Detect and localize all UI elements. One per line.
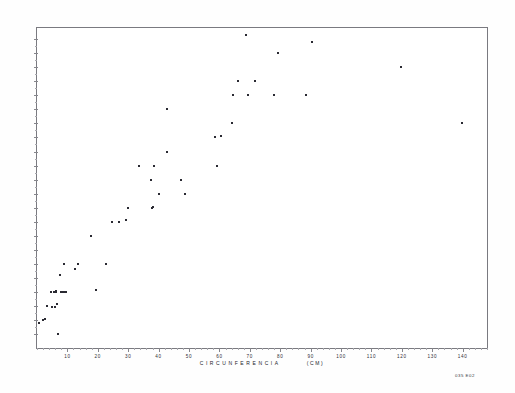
x-axis-tick-label: 60 <box>216 354 223 359</box>
x-axis-tick <box>219 348 220 352</box>
x-axis-tick-label: 120 <box>397 354 407 359</box>
y-axis-tick <box>34 109 38 110</box>
y-axis-tick <box>34 81 38 82</box>
y-axis-tick <box>34 53 38 54</box>
y-axis-minor-tick <box>35 271 37 272</box>
x-axis-minor-tick <box>262 348 263 350</box>
x-axis-minor-tick <box>146 348 147 350</box>
x-axis-tick <box>371 348 372 352</box>
x-axis-minor-tick <box>335 348 336 350</box>
x-axis-tick <box>189 348 190 352</box>
x-axis-tick-label: 50 <box>186 354 193 359</box>
y-axis-minor-tick <box>35 88 37 89</box>
data-point <box>74 268 76 270</box>
x-axis-minor-tick <box>469 348 470 350</box>
y-axis-tick <box>34 306 38 307</box>
y-axis-minor-tick <box>35 327 37 328</box>
y-axis-tick <box>34 67 38 68</box>
data-point <box>254 80 256 82</box>
data-point <box>90 235 92 237</box>
data-point <box>273 94 275 96</box>
y-axis-tick <box>34 208 38 209</box>
x-axis-minor-tick <box>286 348 287 350</box>
x-axis-tick <box>250 348 251 352</box>
x-axis-minor-tick <box>256 348 257 350</box>
x-axis-minor-tick <box>359 348 360 350</box>
y-axis-tick <box>34 39 38 40</box>
data-point <box>63 263 65 265</box>
x-axis-tick <box>159 348 160 352</box>
x-axis-minor-tick <box>213 348 214 350</box>
x-axis-minor-tick <box>232 348 233 350</box>
data-point <box>138 165 140 167</box>
x-axis-minor-tick <box>414 348 415 350</box>
x-axis-minor-tick <box>37 348 38 350</box>
x-axis-tick-label: 140 <box>458 354 468 359</box>
x-axis-tick <box>128 348 129 352</box>
y-axis-minor-tick <box>35 74 37 75</box>
x-axis-minor-tick <box>298 348 299 350</box>
x-axis-tick <box>311 348 312 352</box>
x-axis-minor-tick <box>305 348 306 350</box>
data-point <box>59 274 61 276</box>
data-point <box>166 108 168 110</box>
x-axis-minor-tick <box>244 348 245 350</box>
x-axis-tick-label: 10 <box>64 354 71 359</box>
x-axis-minor-tick <box>451 348 452 350</box>
y-axis-tick <box>34 278 38 279</box>
x-axis-minor-tick <box>55 348 56 350</box>
y-axis-tick <box>34 137 38 138</box>
x-axis-minor-tick <box>292 348 293 350</box>
corner-stamp: 035 E02 <box>455 373 475 378</box>
x-axis-tick-label: 100 <box>336 354 346 359</box>
data-point <box>125 219 127 221</box>
x-axis-tick <box>67 348 68 352</box>
x-axis-tick <box>432 348 433 352</box>
data-point <box>237 80 239 82</box>
x-axis-minor-tick <box>408 348 409 350</box>
x-axis-minor-tick <box>420 348 421 350</box>
data-point <box>95 289 97 291</box>
y-axis-minor-tick <box>35 215 37 216</box>
y-axis-tick <box>34 236 38 237</box>
data-point <box>184 193 186 195</box>
y-axis-tick <box>34 292 38 293</box>
y-axis-minor-tick <box>35 144 37 145</box>
y-axis-tick <box>34 180 38 181</box>
x-axis-minor-tick <box>140 348 141 350</box>
y-axis-minor-tick <box>35 285 37 286</box>
x-axis-minor-tick <box>378 348 379 350</box>
y-axis-tick <box>34 152 38 153</box>
x-axis-minor-tick <box>104 348 105 350</box>
data-point <box>166 151 168 153</box>
x-axis-minor-tick <box>329 348 330 350</box>
data-point <box>158 193 160 195</box>
x-axis-tick-label: 70 <box>247 354 254 359</box>
x-axis-minor-tick <box>390 348 391 350</box>
x-axis-minor-tick <box>49 348 50 350</box>
x-axis-minor-tick <box>457 348 458 350</box>
x-axis-minor-tick <box>226 348 227 350</box>
x-axis-minor-tick <box>61 348 62 350</box>
y-axis-minor-tick <box>35 46 37 47</box>
data-point <box>55 290 57 292</box>
data-point <box>277 52 279 54</box>
y-axis-tick <box>34 264 38 265</box>
data-point <box>44 318 46 320</box>
data-point <box>153 165 155 167</box>
data-point <box>65 291 67 293</box>
data-point <box>54 306 56 308</box>
x-axis-unit-text: (CM) <box>307 360 325 366</box>
y-axis-minor-tick <box>35 116 37 117</box>
data-point <box>461 122 463 124</box>
x-axis-tick-label: 130 <box>427 354 437 359</box>
plot-area <box>37 28 487 348</box>
data-point <box>311 41 313 43</box>
data-point <box>77 263 79 265</box>
x-axis-minor-tick <box>165 348 166 350</box>
y-axis-minor-tick <box>35 299 37 300</box>
x-axis-tick-label: 110 <box>367 354 376 359</box>
x-axis-tick <box>280 348 281 352</box>
x-axis-minor-tick <box>487 348 488 350</box>
y-axis-tick <box>34 166 38 167</box>
